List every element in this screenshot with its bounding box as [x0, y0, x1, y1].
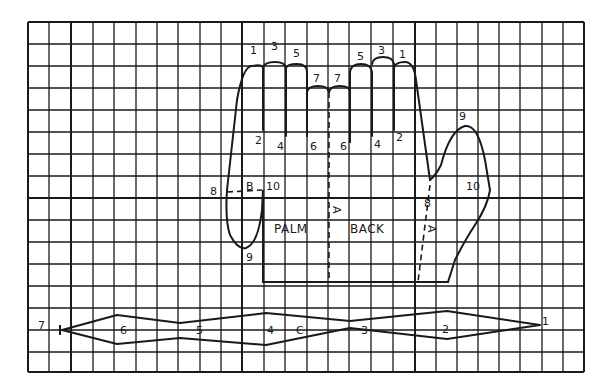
label-base-2-right: 2 [396, 131, 403, 144]
label-strip-5: 5 [196, 324, 203, 337]
label-gusset-8: 8 [210, 185, 217, 198]
finger-right-5 [350, 64, 372, 72]
label-base-6-right: 6 [340, 140, 347, 153]
label-strip-3: 3 [361, 324, 368, 337]
label-strip-1: 1 [542, 315, 549, 328]
label-strip-4: 4 [267, 324, 274, 337]
label-thumb-base-8: 8 [424, 197, 431, 210]
label-finger-7-right: 7 [334, 72, 341, 85]
label-base-4-right: 4 [374, 138, 381, 151]
label-gusset-9: 9 [246, 251, 253, 264]
label-finger-3-right: 3 [378, 44, 385, 57]
label-finger-5-right: 5 [357, 50, 364, 63]
label-base-6-left: 6 [310, 140, 317, 153]
label-base-2-left: 2 [255, 134, 262, 147]
finger-left-3 [263, 62, 286, 68]
label-base-4-left: 4 [277, 140, 284, 153]
thumb [430, 126, 490, 282]
pattern-canvas: 1 3 5 7 7 5 3 1 2 4 6 6 4 2 9 10 8 PALM … [0, 0, 616, 388]
label-thumb-tip-9: 9 [459, 110, 466, 123]
finger-left-5 [286, 64, 307, 132]
label-finger-5-left: 5 [293, 47, 300, 60]
label-back: BACK [350, 222, 385, 236]
label-palm: PALM [274, 222, 308, 236]
hand-outline [227, 57, 490, 282]
label-finger-1-left: 1 [250, 44, 257, 57]
label-finger-7-left: 7 [313, 72, 320, 85]
label-strip-6: 6 [120, 324, 127, 337]
label-strip-7: 7 [38, 319, 45, 332]
label-thumb-notch-10: 10 [466, 180, 480, 193]
fold-marker-center: A [330, 206, 343, 214]
label-finger-1-right: 1 [399, 48, 406, 61]
finger-right-1 [394, 62, 430, 180]
glove-pattern-diagram: 1 3 5 7 7 5 3 1 2 4 6 6 4 2 9 10 8 PALM … [0, 0, 616, 388]
label-strip-c: C [296, 324, 304, 337]
label-finger-3-left: 3 [271, 40, 278, 53]
fold-marker-thumb: A [425, 225, 438, 233]
gusset-dashed-line [227, 190, 262, 192]
finger-right-3 [372, 57, 394, 64]
label-gusset-b: B [246, 180, 254, 193]
label-strip-2: 2 [442, 323, 449, 336]
label-gusset-10: 10 [266, 180, 280, 193]
